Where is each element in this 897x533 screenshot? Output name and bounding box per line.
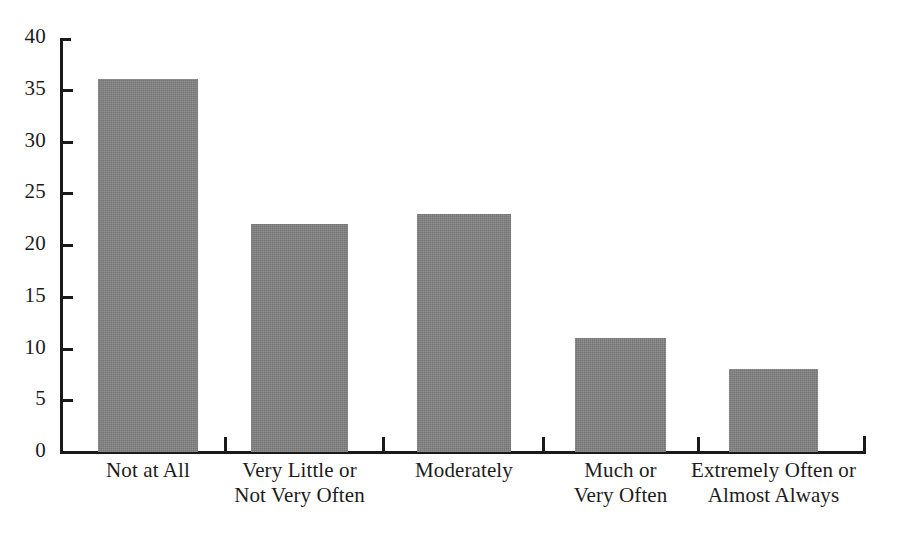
bars-container	[62, 38, 865, 452]
bar-chart: 0510152025303540 Not at AllVery Little o…	[0, 0, 897, 533]
y-axis-tick-label: 5	[0, 388, 46, 409]
bar	[729, 369, 818, 452]
bar	[575, 338, 666, 452]
x-axis-category-label: Extremely Often or Almost Always	[649, 458, 897, 508]
y-axis-tick-label: 20	[0, 233, 46, 254]
y-axis-tick-label: 30	[0, 130, 46, 151]
bar	[98, 79, 198, 452]
bar	[417, 214, 511, 452]
bar	[251, 224, 348, 452]
y-axis-tick-label: 10	[0, 337, 46, 358]
y-axis-tick-label: 35	[0, 78, 46, 99]
y-axis-tick-label: 40	[0, 26, 46, 47]
y-axis-tick-label: 15	[0, 285, 46, 306]
y-axis-tick-label: 25	[0, 181, 46, 202]
